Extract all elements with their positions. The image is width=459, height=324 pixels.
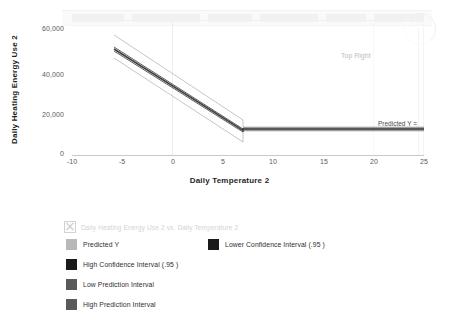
x-tick-label: -10 xyxy=(67,158,77,165)
legend-swatch-icon xyxy=(66,259,77,270)
x-tick-label: 0 xyxy=(171,158,175,165)
y-tick-label: 20,000 xyxy=(42,111,64,118)
x-axis-title: Daily Temperature 2 xyxy=(0,176,459,185)
legend-title: Daily Heating Energy Use 2 vs. Daily Tem… xyxy=(81,224,238,231)
series-line-high-prediction-interval xyxy=(114,35,424,127)
x-tick-label: 10 xyxy=(269,158,277,165)
chart-plot-region: Top Right Predicted Y = 60,000 40,000 20… xyxy=(0,0,459,200)
legend-swatch-icon xyxy=(66,279,77,290)
x-tick-label: 15 xyxy=(320,158,328,165)
annotation-predicted-equation: Predicted Y = xyxy=(378,120,417,127)
annotation-top-right: Top Right xyxy=(341,52,371,59)
legend-item-low-prediction-interval[interactable]: Low Prediction Interval xyxy=(66,279,154,290)
legend-item-label: High Confidence Interval (.95 ) xyxy=(83,261,178,268)
y-axis-title: Daily Heating Energy Use 2 xyxy=(10,15,19,165)
x-tick-label: 20 xyxy=(370,158,378,165)
legend-panel: Daily Heating Energy Use 2 vs. Daily Tem… xyxy=(0,208,459,324)
legend-swatch-icon xyxy=(208,239,219,250)
legend-item-label: High Prediction Interval xyxy=(83,301,156,308)
series-line-predicted-y xyxy=(114,49,424,131)
y-tick-label: 60,000 xyxy=(42,25,64,32)
x-axis-ticks: -10 -5 0 5 10 15 20 25 xyxy=(0,158,459,172)
legend-title-row[interactable]: Daily Heating Energy Use 2 vs. Daily Tem… xyxy=(64,221,238,233)
x-tick-label: 5 xyxy=(221,158,225,165)
x-tick-label: -5 xyxy=(119,158,125,165)
x-tick-label: 25 xyxy=(420,158,428,165)
legend-item-label: Predicted Y xyxy=(83,241,119,248)
y-tick-label: 0 xyxy=(60,150,64,157)
legend-swatch-icon xyxy=(66,239,77,250)
y-tick-label: 40,000 xyxy=(42,71,64,78)
legend-item-predicted-y[interactable]: Predicted Y xyxy=(66,239,119,250)
legend-item-high-prediction-interval[interactable]: High Prediction Interval xyxy=(66,299,156,310)
legend-item-lower-confidence-interval[interactable]: Lower Confidence Interval (.95 ) xyxy=(208,239,325,250)
legend-item-label: Low Prediction Interval xyxy=(83,281,154,288)
legend-item-label: Lower Confidence Interval (.95 ) xyxy=(225,241,325,248)
legend-swatch-icon xyxy=(66,299,77,310)
x-checkbox-icon[interactable] xyxy=(64,221,76,233)
legend-item-high-confidence-interval[interactable]: High Confidence Interval (.95 ) xyxy=(66,259,178,270)
